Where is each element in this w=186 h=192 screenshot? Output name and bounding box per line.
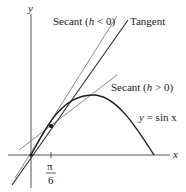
secant-negative-label: Secant (h < 0) bbox=[53, 15, 115, 28]
curve-label: y = sin x bbox=[138, 111, 177, 123]
sine-tangent-diagram: y x π 6 Secant (h < 0) Tangent Secant (h… bbox=[0, 0, 186, 192]
x-axis-label: x bbox=[172, 148, 178, 160]
secant-positive-line bbox=[19, 75, 117, 150]
origin-point bbox=[29, 153, 32, 156]
tick-numerator: π bbox=[47, 160, 53, 172]
secant-positive-label: Secant (h > 0) bbox=[111, 81, 173, 94]
y-axis-label: y bbox=[27, 2, 33, 14]
tangent-point bbox=[49, 124, 53, 128]
tangent-label: Tangent bbox=[130, 15, 165, 27]
tick-denominator: 6 bbox=[48, 174, 54, 186]
